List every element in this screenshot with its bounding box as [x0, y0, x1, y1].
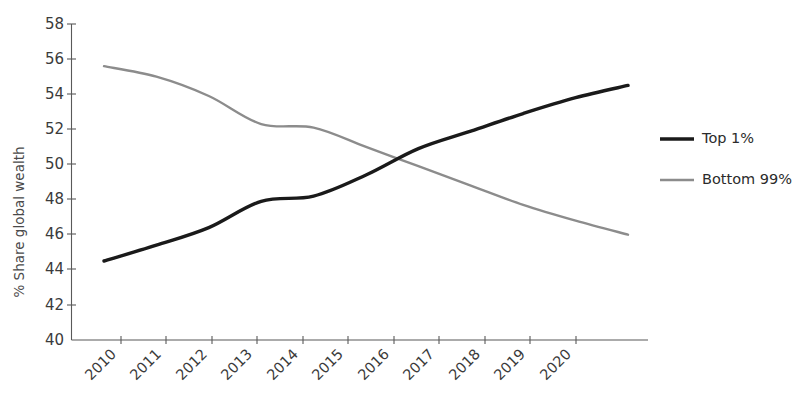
chart-container: % Share global wealth 58 56 54 52 50 48 … [0, 0, 792, 408]
y-tick-label: 42 [45, 296, 64, 314]
x-tick-label: 2013 [218, 346, 255, 383]
x-tick-label: 2020 [537, 346, 574, 383]
x-axis-tick-labels: 2010 2011 2012 2013 2014 2015 2016 2017 … [82, 346, 574, 383]
legend-label-top-1: Top 1% [701, 130, 754, 146]
y-tick-label: 40 [45, 331, 64, 349]
y-tick-label: 52 [45, 120, 64, 138]
x-tick-label: 2015 [309, 346, 346, 383]
legend-label-bottom-99: Bottom 99% [702, 171, 792, 187]
x-tick-label: 2014 [264, 346, 301, 383]
y-tick-label: 56 [45, 50, 64, 68]
series-line-bottom-99 [104, 66, 628, 235]
x-tick-label: 2016 [355, 346, 392, 383]
y-axis-title: % Share global wealth [11, 146, 27, 297]
x-tick-label: 2010 [82, 346, 119, 383]
series-line-top-1 [104, 85, 628, 261]
y-tick-label: 46 [45, 225, 64, 243]
x-tick-label: 2018 [446, 346, 483, 383]
y-tick-label: 44 [45, 260, 64, 278]
y-axis-title-text: % Share global wealth [11, 146, 27, 297]
x-tick-label: 2012 [173, 346, 210, 383]
y-tick-label: 48 [45, 190, 64, 208]
y-axis-tick-labels: 58 56 54 52 50 48 46 44 42 40 [45, 15, 64, 349]
line-chart: % Share global wealth 58 56 54 52 50 48 … [0, 0, 792, 408]
y-tick-label: 50 [45, 155, 64, 173]
legend-item-top-1[interactable]: Top 1% [660, 130, 754, 146]
x-tick-label: 2011 [127, 346, 164, 383]
y-tick-label: 58 [45, 15, 64, 33]
x-tick-label: 2017 [400, 346, 437, 383]
y-tick-label: 54 [45, 85, 64, 103]
chart-legend: Top 1% Bottom 99% [660, 130, 792, 187]
x-tick-label: 2019 [491, 346, 528, 383]
legend-item-bottom-99[interactable]: Bottom 99% [660, 171, 792, 187]
